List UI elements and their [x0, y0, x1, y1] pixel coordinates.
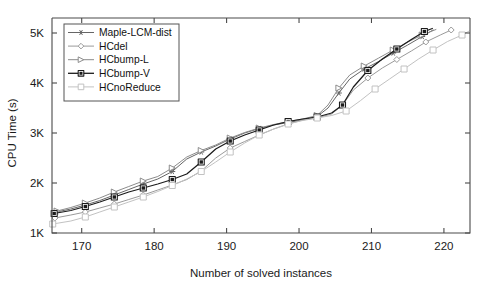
data-point-marker	[285, 121, 291, 127]
legend-label: HCnoReduce	[99, 82, 161, 93]
x-tick-label: 220	[434, 240, 453, 252]
y-tick-label: 5K	[30, 27, 44, 39]
cactus-plot-figure: 1701801902002102201K2K3K4K5K Maple-LCM-d…	[0, 0, 492, 287]
legend-label: HCdel	[99, 41, 128, 52]
data-point-marker	[50, 221, 56, 227]
data-point-marker	[169, 183, 175, 189]
x-tick-label: 170	[72, 240, 91, 252]
data-point-marker	[343, 108, 349, 114]
data-point-marker	[256, 132, 262, 138]
legend-label: HCbump-L	[99, 54, 149, 65]
y-tick-label: 4K	[30, 77, 44, 89]
y-axis-title: CPU Time (s)	[6, 98, 18, 167]
data-point-marker	[459, 32, 465, 38]
data-point-marker	[198, 169, 204, 175]
y-tick-label: 3K	[30, 127, 44, 139]
y-tick-label: 1K	[30, 227, 44, 239]
x-tick-label: 200	[289, 240, 308, 252]
legend-layer: Maple-LCM-distHCdelHCbump-LHCbump-VHCnoR…	[64, 24, 179, 101]
chart-svg: 1701801902002102201K2K3K4K5K Maple-LCM-d…	[0, 0, 492, 287]
data-point-marker	[430, 47, 436, 53]
data-point-marker	[423, 39, 429, 45]
x-tick-label: 190	[217, 240, 236, 252]
legend-label: HCbump-V	[99, 68, 150, 79]
data-point-marker	[394, 57, 400, 63]
data-point-marker	[227, 149, 233, 155]
data-point-marker	[78, 84, 84, 90]
legend-label: Maple-LCM-dist	[99, 27, 172, 38]
x-axis-title: Number of solved instances	[190, 267, 332, 279]
data-point-marker	[111, 204, 117, 210]
x-tick-label: 180	[145, 240, 164, 252]
data-point-marker	[448, 27, 454, 33]
x-tick-label: 210	[362, 240, 381, 252]
data-point-marker	[140, 194, 146, 200]
data-point-marker	[372, 86, 378, 92]
data-point-marker	[401, 66, 407, 72]
data-point-marker	[314, 115, 320, 121]
y-tick-label: 2K	[30, 177, 44, 189]
data-point-marker	[82, 214, 88, 220]
